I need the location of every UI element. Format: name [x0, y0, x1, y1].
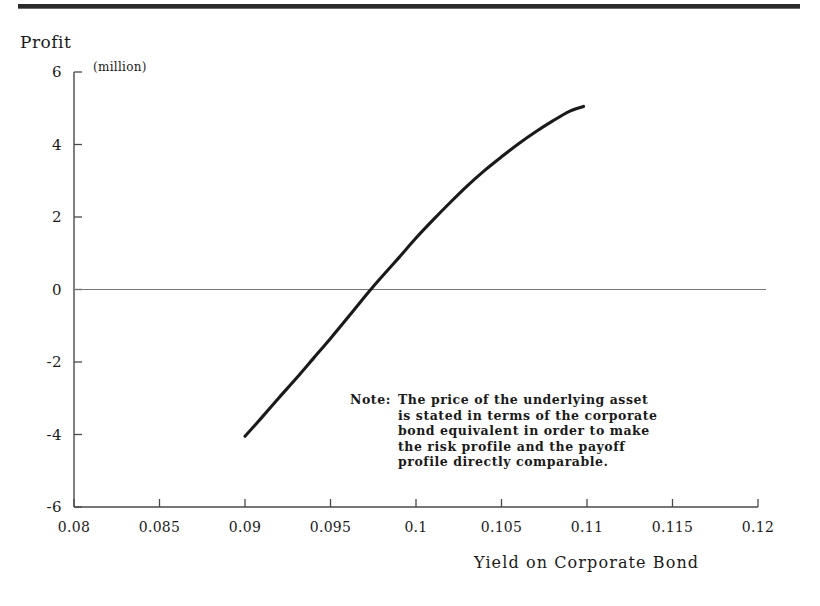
note-line-2: bond equivalent in order to make — [350, 423, 658, 439]
note-line-0: The price of the underlying asset — [398, 392, 648, 408]
x-tick-label: 0.11 — [552, 519, 622, 535]
y-tick-label: 0 — [22, 281, 62, 299]
x-tick-label: 0.12 — [723, 519, 793, 535]
note-line-1: is stated in terms of the corporate — [350, 408, 658, 424]
data-curve-group — [245, 106, 584, 436]
payoff-profile-curve — [245, 106, 584, 436]
x-axis-tick-marks — [74, 499, 758, 507]
x-tick-label: 0.085 — [125, 519, 195, 535]
x-tick-label: 0.1 — [381, 519, 451, 535]
note-label: Note: — [350, 392, 398, 408]
y-tick-label: -4 — [22, 426, 62, 444]
x-tick-label: 0.095 — [296, 519, 366, 535]
y-tick-label: 2 — [22, 208, 62, 226]
y-tick-label: -6 — [22, 498, 62, 516]
y-tick-label: 4 — [22, 136, 62, 154]
note-first-line: Note:The price of the underlying asset — [350, 392, 658, 408]
x-tick-label: 0.08 — [39, 519, 109, 535]
note-line-3: the risk profile and the payoff — [350, 439, 658, 455]
y-tick-label: 6 — [22, 63, 62, 81]
x-tick-label: 0.115 — [638, 519, 708, 535]
x-tick-label: 0.09 — [210, 519, 280, 535]
y-tick-label: -2 — [22, 353, 62, 371]
x-tick-label: 0.105 — [467, 519, 537, 535]
chart-note: Note:The price of the underlying asset i… — [350, 392, 658, 470]
plot-area — [0, 0, 820, 606]
note-line-4: profile directly comparable. — [350, 454, 658, 470]
figure-container: Profit (million) Yield on Corporate Bond… — [0, 0, 820, 606]
